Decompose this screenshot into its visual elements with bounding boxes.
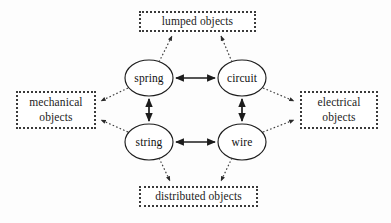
category-box-distributed[interactable]: distributed objects <box>139 186 258 207</box>
category-box-mechanical[interactable]: mechanical objects <box>16 91 96 129</box>
category-box-electrical[interactable]: electrical objects <box>300 91 378 129</box>
category-lumped-label: lumped objects <box>162 14 233 29</box>
diagram-canvas: spring circuit string wire lumped object… <box>0 0 391 223</box>
edge-spring-mechanical <box>101 88 128 101</box>
edge-spring-lumped <box>159 36 172 62</box>
category-electrical-label-line1: electrical <box>317 95 360 110</box>
category-electrical-label-line2: objects <box>322 110 355 125</box>
node-circuit-ellipse[interactable] <box>218 60 266 96</box>
node-ellipses <box>125 60 266 160</box>
edge-circuit-lumped <box>221 36 232 62</box>
edge-wire-electrical <box>263 120 294 132</box>
edge-wire-distributed <box>221 158 232 181</box>
node-string-ellipse[interactable] <box>125 124 173 160</box>
category-distributed-label: distributed objects <box>155 189 242 204</box>
edge-string-mechanical <box>101 120 128 132</box>
category-mechanical-label-line2: objects <box>39 110 72 125</box>
category-box-lumped[interactable]: lumped objects <box>139 11 256 32</box>
edge-string-distributed <box>159 158 170 181</box>
edge-circuit-electrical <box>263 88 294 101</box>
dotted-edges <box>101 36 294 181</box>
category-mechanical-label-line1: mechanical <box>29 95 82 110</box>
node-wire-ellipse[interactable] <box>218 124 266 160</box>
node-spring-ellipse[interactable] <box>125 60 173 96</box>
